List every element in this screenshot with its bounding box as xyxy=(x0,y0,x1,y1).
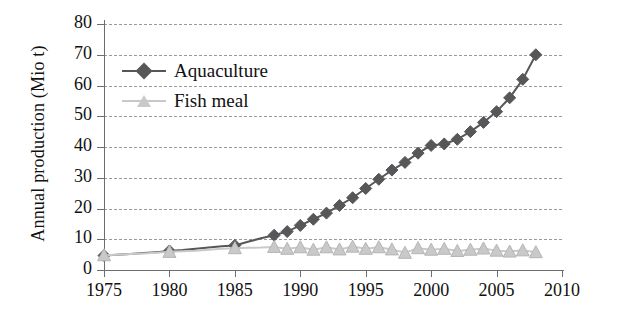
legend-key xyxy=(122,93,166,109)
y-axis-tick-label: 20 xyxy=(52,197,92,218)
legend-triangle-icon xyxy=(137,95,151,107)
y-axis-tick-label: 10 xyxy=(52,227,92,248)
x-axis-tick xyxy=(300,270,301,277)
y-axis-tick-label: 50 xyxy=(52,104,92,125)
x-axis-tick xyxy=(169,270,170,277)
y-axis-tick xyxy=(97,55,105,56)
legend-key xyxy=(122,63,166,79)
legend-label: Fish meal xyxy=(174,90,248,112)
gridline xyxy=(104,147,562,148)
x-axis-tick xyxy=(104,270,105,277)
x-axis-tick-label: 2000 xyxy=(401,280,461,301)
legend-label: Aquaculture xyxy=(174,60,268,82)
y-axis-tick xyxy=(97,147,105,148)
y-axis-tick-label: 0 xyxy=(52,258,92,279)
gridline xyxy=(104,55,562,56)
x-axis-tick xyxy=(431,270,432,277)
x-axis-tick-label: 1985 xyxy=(205,280,265,301)
chart-legend: AquacultureFish meal xyxy=(122,58,268,118)
x-axis-tick-label: 1975 xyxy=(74,280,134,301)
y-axis-tick-label: 70 xyxy=(52,43,92,64)
y-axis-tick-label: 80 xyxy=(52,12,92,33)
x-axis-tick-label: 2010 xyxy=(532,280,592,301)
x-axis-tick-label: 1980 xyxy=(139,280,199,301)
y-axis-tick-label: 60 xyxy=(52,74,92,95)
x-axis-tick xyxy=(497,270,498,277)
x-axis-tick xyxy=(562,270,563,277)
y-axis-tick xyxy=(97,24,105,25)
y-axis-tick xyxy=(97,86,105,87)
legend-item-aquaculture: Aquaculture xyxy=(122,58,268,84)
chart-figure: Annual production (Mio t) 01020304050607… xyxy=(0,0,634,328)
gridline xyxy=(104,24,562,25)
y-axis-tick xyxy=(97,116,105,117)
gridline xyxy=(104,239,562,240)
y-axis-tick xyxy=(97,239,105,240)
x-axis-tick-label: 1990 xyxy=(270,280,330,301)
gridline xyxy=(104,178,562,179)
x-axis-tick xyxy=(366,270,367,277)
y-axis-tick-label: 40 xyxy=(52,135,92,156)
y-axis-title: Annual production (Mio t) xyxy=(28,14,49,274)
y-axis-tick xyxy=(97,209,105,210)
legend-item-fish-meal: Fish meal xyxy=(122,88,268,114)
x-axis-tick xyxy=(235,270,236,277)
gridline xyxy=(104,209,562,210)
y-axis-tick-label: 30 xyxy=(52,166,92,187)
legend-diamond-icon xyxy=(136,63,153,80)
y-axis-tick xyxy=(97,178,105,179)
x-axis-tick-label: 2005 xyxy=(467,280,527,301)
x-axis-tick-label: 1995 xyxy=(336,280,396,301)
